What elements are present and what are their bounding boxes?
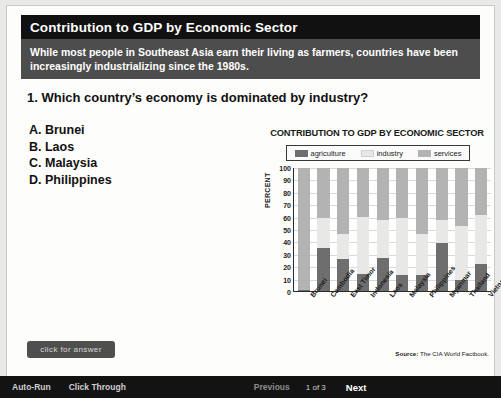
- bar-segment: [416, 168, 428, 234]
- chart-plot-area: PERCENT 0102030405060708090100 BruneiCam…: [265, 168, 491, 303]
- y-tick-label: 30: [283, 251, 291, 258]
- chart-legend: agriculture industry services: [286, 145, 470, 161]
- bar-group: [393, 168, 413, 291]
- legend-item-services: services: [418, 149, 462, 158]
- bar-segment: [396, 168, 408, 218]
- player-toolbar: Auto-Run Click Through Previous 1 of 3 N…: [0, 376, 501, 398]
- y-tick-label: 0: [287, 289, 291, 296]
- legend-item-agriculture: agriculture: [295, 149, 346, 158]
- bar-segment: [436, 168, 448, 220]
- chart-title: CONTRIBUTION TO GDP BY ECONOMIC SECTOR: [263, 128, 491, 138]
- y-axis-label: PERCENT: [264, 172, 271, 208]
- scanned-page-background: Contribution to GDP by Economic Sector W…: [0, 0, 501, 398]
- bar-segment: [317, 168, 329, 218]
- bar-segment: [436, 220, 448, 243]
- click-through-button[interactable]: Click Through: [63, 380, 132, 394]
- y-tick-label: 70: [283, 202, 291, 209]
- slide-canvas: Contribution to GDP by Economic Sector W…: [7, 6, 494, 390]
- source-text: The CIA World Factbook.: [420, 350, 489, 357]
- bar-segment: [396, 218, 408, 275]
- bar-segment: [455, 168, 467, 226]
- list-item[interactable]: D. Philippines: [29, 172, 112, 189]
- slide-subtitle: While most people in Southeast Asia earn…: [21, 39, 480, 73]
- bar-segment: [298, 168, 310, 290]
- y-tick-label: 20: [283, 264, 291, 271]
- x-axis-ticks: BruneiCambodiaEast TimorIndonesiaLaosMal…: [293, 294, 491, 354]
- bar-segment: [337, 168, 349, 234]
- slide-subtitle-bar: While most people in Southeast Asia earn…: [21, 39, 480, 79]
- auto-run-button[interactable]: Auto-Run: [6, 380, 57, 394]
- bar-segment: [317, 218, 329, 248]
- chart-source-note: Source: The CIA World Factbook.: [395, 350, 489, 357]
- bar-segment: [337, 234, 349, 259]
- list-item[interactable]: A. Brunei: [29, 122, 112, 139]
- bar-segment: [377, 220, 389, 258]
- bar-segment: [475, 215, 487, 264]
- y-tick-label: 60: [283, 214, 291, 221]
- y-axis-ticks: 0102030405060708090100: [271, 168, 291, 292]
- legend-item-industry: industry: [361, 149, 403, 158]
- list-item[interactable]: C. Malaysia: [29, 155, 112, 172]
- y-tick-label: 50: [283, 227, 291, 234]
- click-for-answer-button[interactable]: click for answer: [27, 341, 115, 358]
- bar-segment: [357, 217, 369, 274]
- bar-segment: [298, 290, 310, 291]
- bar-segment: [475, 168, 487, 215]
- page-title: Contribution to GDP by Economic Sector: [21, 20, 298, 35]
- legend-swatch-icon: [418, 150, 431, 157]
- bar-segment: [416, 234, 428, 275]
- bar-group: [314, 168, 334, 291]
- bar-segment: [357, 168, 369, 217]
- slide-title-bar: Contribution to GDP by Economic Sector: [21, 15, 480, 39]
- y-tick-label: 100: [279, 165, 291, 172]
- y-tick-label: 40: [283, 239, 291, 246]
- source-label: Source:: [395, 350, 418, 357]
- legend-label: agriculture: [311, 149, 346, 158]
- y-tick-label: 80: [283, 189, 291, 196]
- page-indicator: 1 of 3: [306, 383, 326, 392]
- legend-swatch-icon: [295, 150, 308, 157]
- y-tick-label: 90: [283, 177, 291, 184]
- bar-group: [294, 168, 314, 291]
- legend-label: industry: [377, 149, 403, 158]
- answer-choices-list: A. Brunei B. Laos C. Malaysia D. Philipp…: [29, 122, 112, 188]
- legend-label: services: [434, 149, 462, 158]
- y-tick-label: 10: [283, 276, 291, 283]
- list-item[interactable]: B. Laos: [29, 139, 112, 156]
- previous-button[interactable]: Previous: [248, 380, 296, 394]
- question-text: 1. Which country’s economy is dominated …: [27, 90, 467, 105]
- legend-swatch-icon: [361, 150, 374, 157]
- gdp-chart: CONTRIBUTION TO GDP BY ECONOMIC SECTOR a…: [265, 128, 491, 366]
- bar-segment: [377, 168, 389, 220]
- next-button[interactable]: Next: [338, 380, 375, 395]
